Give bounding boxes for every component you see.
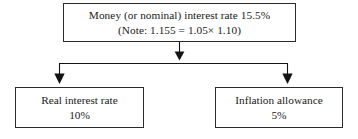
node-money-line-1: Money (or nominal) interest rate 15.5% — [89, 8, 270, 22]
arrowhead-split-to-inflation — [282, 74, 292, 85]
node-money-line-2: (Note: 1.155 = 1.05× 1.10) — [118, 23, 241, 37]
arrowhead-split-to-real — [54, 74, 64, 85]
diagram-canvas: Money (or nominal) interest rate 15.5% (… — [0, 0, 358, 139]
node-inflation-line-1: Inflation allowance — [235, 93, 323, 107]
arrowhead-money-to-split — [175, 52, 185, 61]
node-real-line-2: 10% — [69, 108, 90, 122]
node-inflation-allowance: Inflation allowance 5% — [215, 87, 343, 128]
node-real-line-1: Real interest rate — [41, 93, 118, 107]
node-real-interest-rate: Real interest rate 10% — [15, 87, 144, 128]
node-money-interest-rate: Money (or nominal) interest rate 15.5% (… — [63, 3, 296, 42]
node-inflation-line-2: 5% — [271, 108, 286, 122]
